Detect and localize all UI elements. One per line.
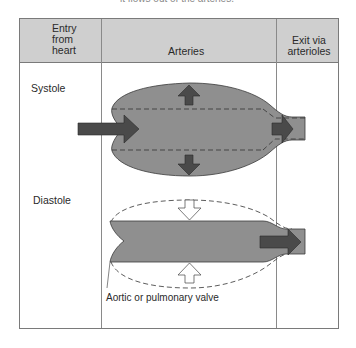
hollow-arrow-down-icon [178, 200, 201, 220]
valve-pointer-line [107, 262, 110, 288]
vessel-diagram [0, 0, 356, 348]
hollow-arrow-up-icon [178, 263, 201, 283]
